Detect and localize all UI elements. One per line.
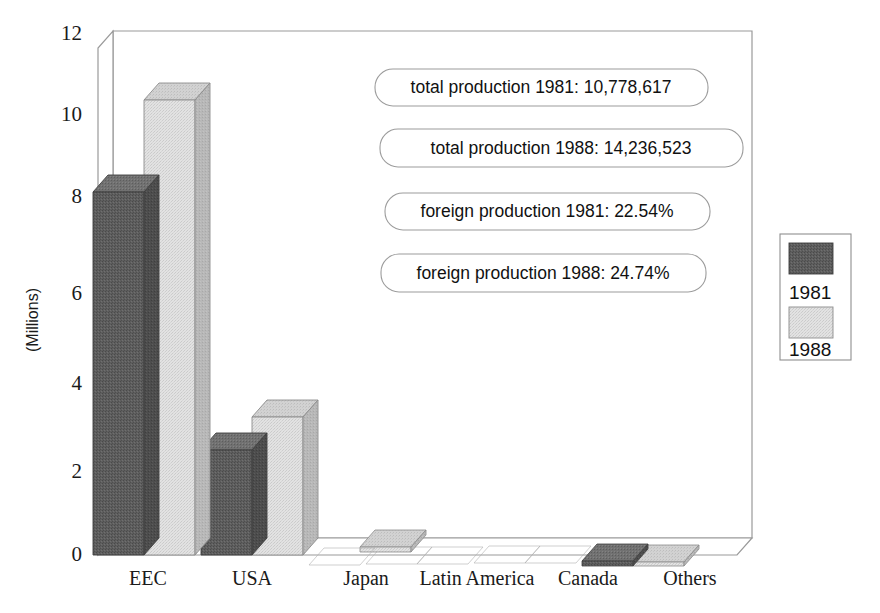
legend[interactable]: 1981 1988 (780, 234, 851, 360)
annotation-foreign-1981[interactable]: foreign production 1981: 22.54% (385, 193, 710, 230)
category-label-latin-america: Latin America (420, 567, 535, 589)
category-label-japan: Japan (343, 567, 389, 590)
annotation-total-1981[interactable]: total production 1981: 10,778,617 (375, 69, 708, 106)
legend-label-1988: 1988 (789, 339, 831, 360)
annotation-text-foreign-1988: foreign production 1988: 24.74% (417, 263, 670, 283)
legend-swatch-1981 (789, 243, 833, 274)
x-axis-category-labels: EEC USA Japan Latin America Canada Other… (129, 567, 717, 590)
legend-item-1981[interactable]: 1981 (789, 243, 833, 303)
legend-item-1988[interactable]: 1988 (789, 307, 833, 360)
y-tick-6: 6 (72, 281, 83, 305)
category-label-usa: USA (232, 567, 273, 589)
legend-label-1981: 1981 (789, 282, 831, 303)
bar-eec-1981[interactable] (93, 175, 159, 555)
bar-chart-figure: 12 10 8 6 4 2 0 (Millions) (0, 0, 880, 613)
y-axis-tick-labels: 12 10 8 6 4 2 0 (61, 21, 83, 566)
y-tick-4: 4 (72, 371, 83, 395)
category-label-canada: Canada (558, 567, 618, 589)
y-tick-12: 12 (61, 21, 82, 45)
bar-usa-1981[interactable] (201, 433, 267, 555)
category-label-eec: EEC (129, 567, 167, 589)
y-tick-8: 8 (72, 184, 83, 208)
y-axis-title: (Millions) (24, 288, 41, 352)
y-tick-2: 2 (72, 459, 83, 483)
annotation-text-total-1981: total production 1981: 10,778,617 (411, 77, 672, 97)
annotation-foreign-1988[interactable]: foreign production 1988: 24.74% (381, 254, 706, 292)
y-tick-10: 10 (61, 102, 82, 126)
annotation-total-1988[interactable]: total production 1988: 14,236,523 (380, 129, 743, 167)
y-tick-0: 0 (72, 542, 83, 566)
chart-root: 12 10 8 6 4 2 0 (Millions) (0, 0, 880, 613)
annotation-text-total-1988: total production 1988: 14,236,523 (431, 138, 692, 158)
annotation-text-foreign-1981: foreign production 1981: 22.54% (421, 201, 674, 221)
category-label-others: Others (663, 567, 717, 589)
legend-swatch-1988 (789, 307, 833, 338)
